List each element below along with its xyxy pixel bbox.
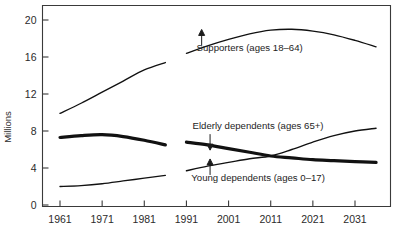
y-tick-label: 16 — [25, 51, 37, 63]
y-tick-label: 0 — [31, 199, 37, 211]
x-tick-label: 1961 — [48, 213, 72, 225]
x-tick-label: 2031 — [343, 213, 367, 225]
x-tick-label: 1971 — [90, 213, 114, 225]
x-tick-label: 1991 — [175, 213, 199, 225]
y-tick-label: 20 — [25, 14, 37, 26]
annotation-label: Young dependents (ages 0–17) — [191, 172, 325, 183]
chart-canvas: 048121620 196119711981199120012011202120… — [0, 0, 402, 242]
annotation-label: Supporters (ages 18–64) — [197, 42, 303, 53]
x-tick-label: 1981 — [133, 213, 157, 225]
x-tick-label: 2021 — [301, 213, 325, 225]
y-tick-label: 8 — [31, 125, 37, 137]
y-tick-label: 4 — [31, 162, 37, 174]
annotation-label: Elderly dependents (ages 65+) — [193, 120, 324, 131]
population-projection-chart: 048121620 196119711981199120012011202120… — [0, 0, 402, 242]
y-axis-label: Millions — [2, 111, 13, 143]
x-tick-label: 2001 — [217, 213, 241, 225]
y-tick-label: 12 — [25, 88, 37, 100]
x-tick-label: 2011 — [259, 213, 282, 225]
